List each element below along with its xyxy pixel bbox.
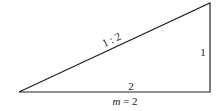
vertical-side-label: 1 bbox=[200, 46, 206, 58]
slope-value: = 2 bbox=[120, 95, 137, 107]
slope-caption: m = 2 bbox=[112, 95, 137, 107]
triangle-diagram: 1 : 2 1 2 m = 2 bbox=[0, 0, 224, 111]
hypotenuse-ratio-label: 1 : 2 bbox=[100, 30, 123, 49]
horizontal-side-label: 2 bbox=[128, 80, 134, 92]
slope-variable: m bbox=[112, 95, 120, 107]
right-triangle bbox=[19, 3, 210, 92]
